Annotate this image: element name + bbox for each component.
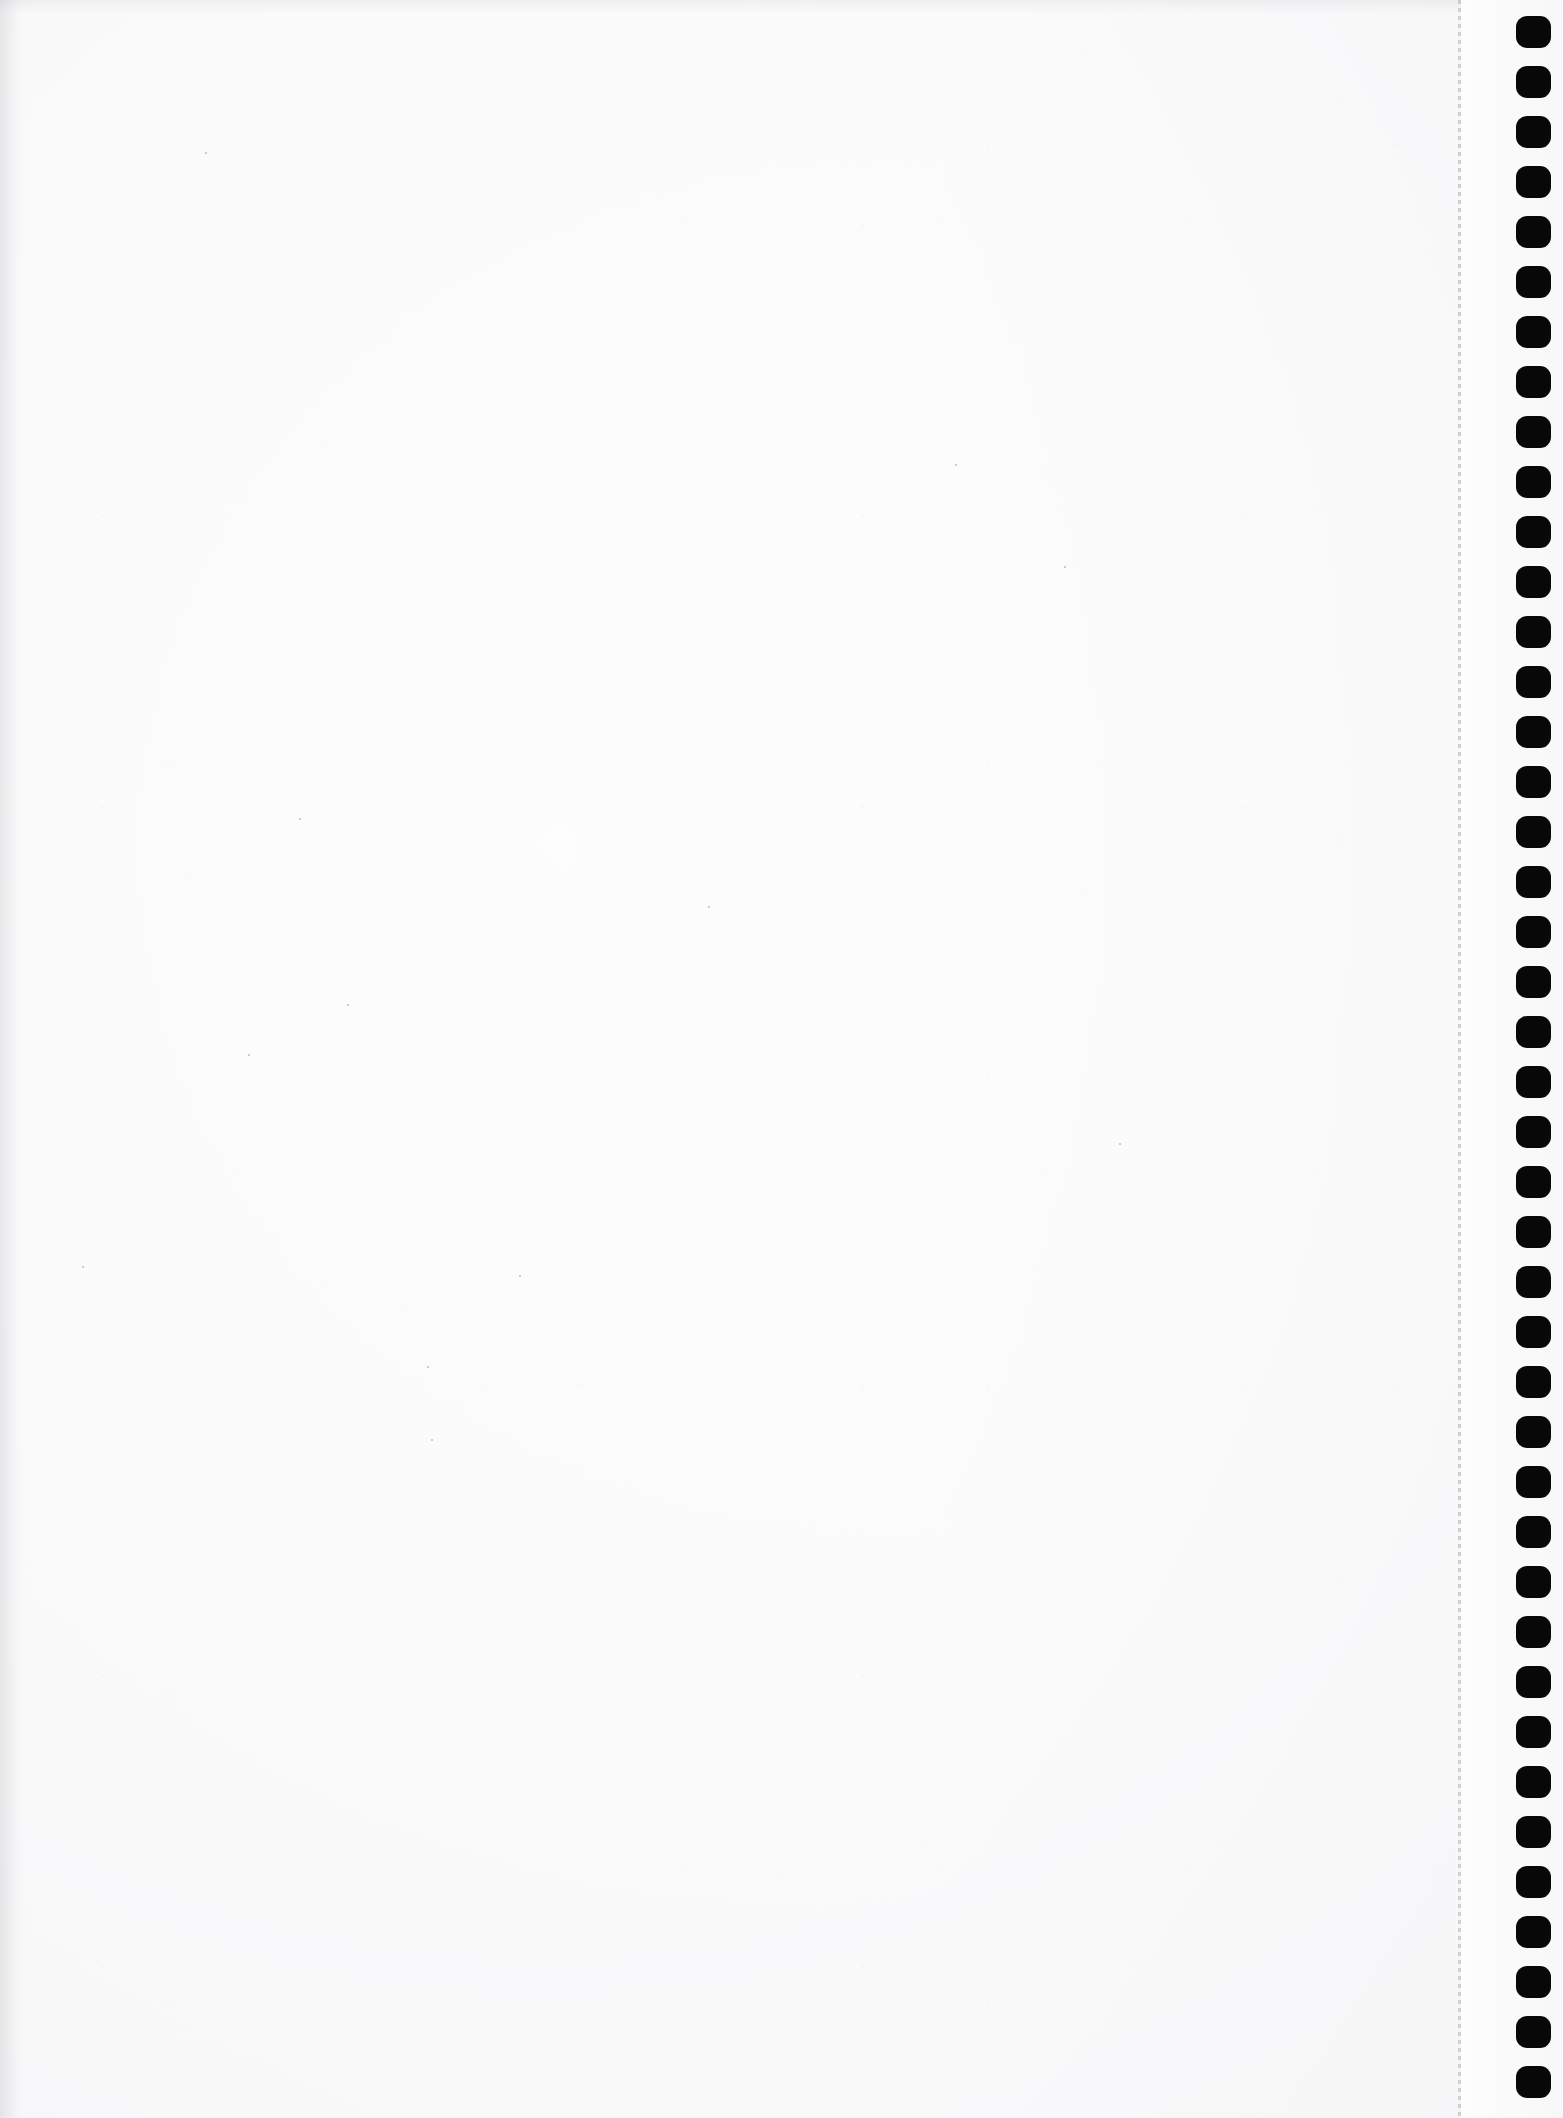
sprocket-hole bbox=[1516, 1166, 1551, 1198]
sprocket-hole bbox=[1516, 816, 1551, 848]
paper-speck bbox=[955, 464, 957, 466]
paper-speck bbox=[431, 1439, 433, 1441]
sprocket-hole bbox=[1516, 1916, 1551, 1948]
paper-speck bbox=[708, 906, 710, 908]
sprocket-hole bbox=[1516, 1966, 1551, 1998]
sprocket-hole bbox=[1516, 866, 1551, 898]
sprocket-hole bbox=[1516, 716, 1551, 748]
paper-speck bbox=[519, 1275, 521, 1277]
sprocket-hole bbox=[1516, 1066, 1551, 1098]
sprocket-hole bbox=[1516, 416, 1551, 448]
paper-speck bbox=[347, 1004, 349, 1006]
sprocket-hole bbox=[1516, 916, 1551, 948]
sprocket-hole bbox=[1516, 566, 1551, 598]
sprocket-hole bbox=[1516, 1616, 1551, 1648]
paper-speck bbox=[299, 818, 301, 820]
sprocket-hole bbox=[1516, 66, 1551, 98]
sprocket-hole bbox=[1516, 166, 1551, 198]
scanned-page bbox=[0, 0, 1563, 2118]
sprocket-hole bbox=[1516, 2016, 1551, 2048]
sprocket-hole bbox=[1516, 1216, 1551, 1248]
sprocket-hole bbox=[1516, 1466, 1551, 1498]
sprocket-hole bbox=[1516, 516, 1551, 548]
paper-speck bbox=[427, 1366, 429, 1368]
sprocket-hole bbox=[1516, 666, 1551, 698]
sprocket-hole bbox=[1516, 366, 1551, 398]
sprocket-hole bbox=[1516, 2066, 1551, 2098]
sprocket-hole bbox=[1516, 1716, 1551, 1748]
sprocket-hole bbox=[1516, 1666, 1551, 1698]
sprocket-hole bbox=[1516, 316, 1551, 348]
sprocket-hole bbox=[1516, 1766, 1551, 1798]
tear-off-perforation bbox=[1458, 0, 1461, 2118]
sprocket-hole bbox=[1516, 1866, 1551, 1898]
paper-speck bbox=[1119, 1143, 1121, 1145]
scan-edge-shadow-top bbox=[0, 0, 1563, 14]
sprocket-hole bbox=[1516, 1116, 1551, 1148]
paper-speck bbox=[1064, 566, 1066, 568]
sprocket-hole bbox=[1516, 616, 1551, 648]
sprocket-hole bbox=[1516, 1416, 1551, 1448]
sprocket-hole bbox=[1516, 1366, 1551, 1398]
sprocket-hole bbox=[1516, 766, 1551, 798]
sprocket-hole bbox=[1516, 466, 1551, 498]
sprocket-hole bbox=[1516, 1016, 1551, 1048]
sprocket-hole bbox=[1516, 1566, 1551, 1598]
sprocket-hole bbox=[1516, 116, 1551, 148]
sprocket-hole bbox=[1516, 266, 1551, 298]
paper-speck bbox=[248, 1054, 250, 1056]
paper-background bbox=[0, 0, 1563, 2118]
paper-speck bbox=[205, 152, 207, 154]
sprocket-hole bbox=[1516, 966, 1551, 998]
sprocket-hole bbox=[1516, 1266, 1551, 1298]
tractor-feed-strip bbox=[1461, 0, 1563, 2118]
sprocket-hole bbox=[1516, 1816, 1551, 1848]
sprocket-hole bbox=[1516, 216, 1551, 248]
paper-speck bbox=[82, 1266, 84, 1268]
sprocket-hole bbox=[1516, 16, 1551, 48]
sprocket-hole bbox=[1516, 1516, 1551, 1548]
sprocket-hole bbox=[1516, 1316, 1551, 1348]
scan-edge-shadow-left bbox=[0, 0, 18, 2118]
